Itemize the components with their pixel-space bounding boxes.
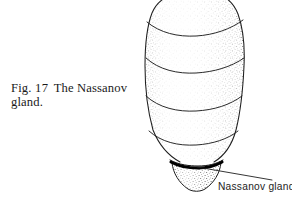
- caption-line-2: gland.: [11, 96, 139, 110]
- caption-figure-number: 17: [35, 81, 49, 95]
- figure-page: Fig. 17The Nassanov gland. Nassanov glan…: [0, 0, 292, 199]
- caption-title: The Nassanov: [54, 81, 128, 95]
- figure-caption: Fig. 17The Nassanov gland.: [11, 82, 139, 109]
- caption-line-1: Fig. 17The Nassanov: [11, 82, 139, 96]
- caption-figure-prefix: Fig.: [11, 81, 32, 95]
- nassanov-gland-label: Nassanov gland: [218, 181, 292, 192]
